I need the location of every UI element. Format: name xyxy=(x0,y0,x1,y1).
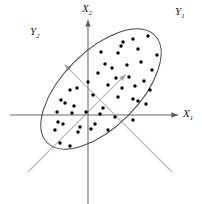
scatter-point xyxy=(113,115,116,118)
scatter-point xyxy=(56,120,59,123)
scatter-point xyxy=(55,110,58,113)
scatter-point xyxy=(75,86,78,89)
scatter-point xyxy=(131,97,134,100)
scatter-point xyxy=(91,93,94,96)
scatter-point xyxy=(106,128,109,131)
scatter-point xyxy=(119,44,122,47)
scatter-point xyxy=(59,98,62,101)
scatter-point xyxy=(103,62,106,65)
scatter-point xyxy=(110,66,113,69)
scatter-point xyxy=(106,83,109,86)
original-axes-group xyxy=(10,20,178,204)
scatter-point xyxy=(86,80,89,83)
scatter-point xyxy=(127,75,130,78)
scatter-point xyxy=(120,86,123,89)
scatter-point xyxy=(131,118,134,121)
scatter-point xyxy=(114,76,117,79)
scatter-point xyxy=(68,88,71,91)
scatter-point xyxy=(136,99,139,102)
scatter-point xyxy=(84,110,87,113)
scatter-point xyxy=(68,144,71,147)
scatter-point xyxy=(116,95,119,98)
pca-axes-scatter-figure: X2 X1 Y1 Y2 xyxy=(0,0,202,204)
scatter-point xyxy=(139,60,142,63)
scatter-point xyxy=(63,101,66,104)
scatter-point xyxy=(116,51,119,54)
rotated-axes-group xyxy=(28,65,172,172)
scatter-point xyxy=(93,122,96,125)
scatter-point xyxy=(142,79,145,82)
scatter-point xyxy=(101,106,104,109)
axis-y1-line xyxy=(65,65,172,172)
axis-label-x2: X2 xyxy=(82,3,92,17)
axis-label-y1: Y1 xyxy=(175,6,185,20)
scatter-point xyxy=(150,68,153,71)
scatter-point xyxy=(89,127,92,130)
scatter-point xyxy=(125,63,128,66)
axis-label-y2: Y2 xyxy=(30,26,40,40)
axis-label-x1: X1 xyxy=(183,108,193,122)
scatter-point xyxy=(144,102,147,105)
data-ellipse xyxy=(20,8,181,169)
scatter-point xyxy=(78,125,81,128)
scatter-point xyxy=(146,34,149,37)
scatter-point xyxy=(72,104,75,107)
scatter-point xyxy=(96,71,99,74)
scatter-point xyxy=(131,37,134,40)
scatter-point xyxy=(99,50,102,53)
scatter-point xyxy=(61,122,64,125)
scatter-point xyxy=(148,88,151,91)
scatter-point xyxy=(121,40,124,43)
scatter-point xyxy=(58,141,61,144)
scatter-point xyxy=(53,128,56,131)
scatter-point xyxy=(76,130,79,133)
scatter-point xyxy=(133,84,136,87)
scatter-point xyxy=(155,53,158,56)
scatter-point xyxy=(70,111,73,114)
scatter-point xyxy=(98,112,101,115)
scatter-point xyxy=(136,47,139,50)
